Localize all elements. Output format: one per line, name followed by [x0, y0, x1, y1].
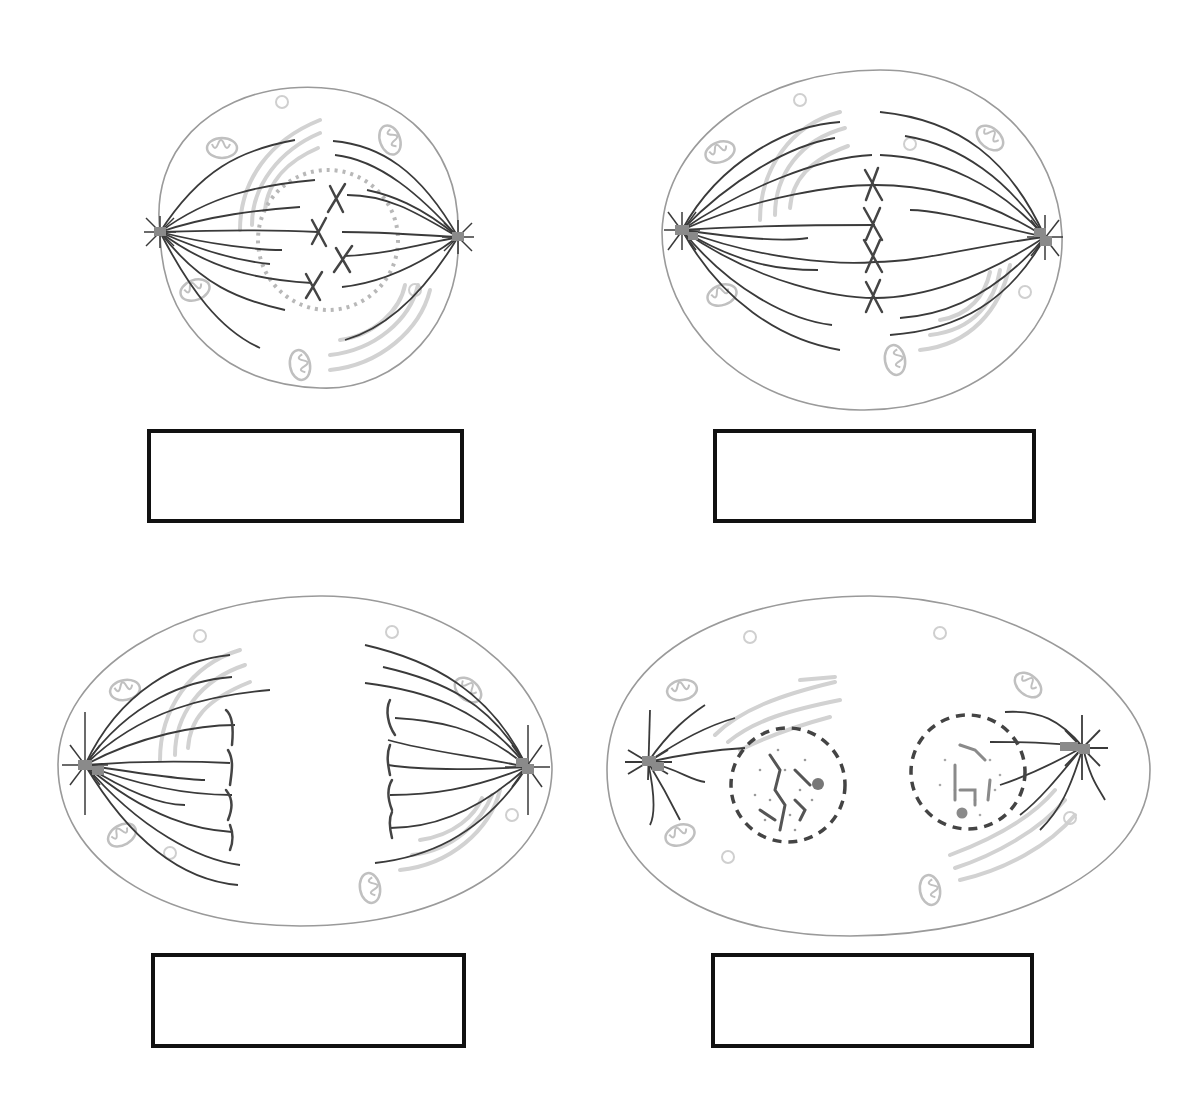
stage-label-box-3[interactable] — [151, 953, 466, 1048]
cell-membrane — [607, 596, 1150, 936]
stage-label-text-2 — [717, 433, 1032, 519]
cell-metaphase — [662, 70, 1063, 410]
nucleolus — [957, 808, 968, 819]
cell-membrane — [662, 70, 1062, 410]
cell-anaphase — [58, 596, 552, 926]
stage-label-text-1 — [151, 433, 460, 519]
centrosome-right — [442, 220, 474, 254]
cell-membrane — [58, 596, 552, 926]
stage-label-text-4 — [715, 957, 1030, 1044]
cell-membrane — [159, 87, 458, 388]
stage-label-box-2[interactable] — [713, 429, 1036, 523]
nucleolus — [812, 778, 824, 790]
stage-label-text-3 — [155, 957, 462, 1044]
stage-label-box-1[interactable] — [147, 429, 464, 523]
cell-prometaphase — [144, 87, 474, 388]
cell-telophase — [607, 596, 1150, 936]
stage-label-box-4[interactable] — [711, 953, 1034, 1048]
centrosome-right — [1027, 215, 1063, 260]
mitosis-stages-diagram — [0, 0, 1201, 1113]
centrosome-left — [144, 216, 176, 248]
